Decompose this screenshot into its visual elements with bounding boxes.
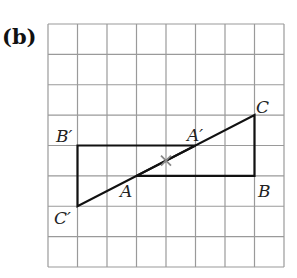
label-A: A bbox=[118, 181, 132, 201]
label-B: B bbox=[257, 181, 271, 201]
rotation-diagram: (b) A B C A′ B′ C′ bbox=[0, 0, 297, 278]
part-label: (b) bbox=[2, 24, 37, 49]
label-A-prime: A′ bbox=[185, 125, 203, 145]
label-C-prime: C′ bbox=[54, 208, 71, 228]
label-B-prime: B′ bbox=[55, 126, 72, 146]
label-C: C bbox=[256, 97, 269, 117]
